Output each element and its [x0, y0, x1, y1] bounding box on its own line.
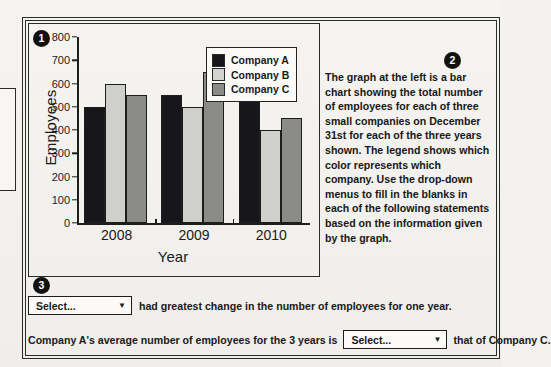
y-tick-mark-300 — [72, 153, 77, 154]
x-tick-label-2010: 2010 — [236, 227, 306, 243]
badge-two: 2 — [444, 52, 461, 69]
y-tick-label-100: 100 — [44, 194, 70, 206]
y-tick-mark-0 — [72, 222, 77, 223]
statement-two: Company A's average number of employees … — [28, 330, 494, 349]
y-tick-mark-600 — [72, 83, 77, 84]
x-axis-separator — [233, 219, 234, 224]
legend-label-company-b: Company B — [231, 69, 289, 81]
legend-swatch-company-a — [212, 54, 225, 67]
y-tick-label-300: 300 — [44, 147, 70, 159]
x-axis-separator — [155, 219, 156, 224]
statement-two-dropdown-value: Select... — [351, 334, 391, 346]
bar-company-c-2010 — [281, 118, 302, 223]
chart-legend: Company A Company B Company C — [206, 47, 297, 102]
statement-one-dropdown-value: Select... — [36, 300, 76, 312]
y-tick-mark-200 — [72, 176, 77, 177]
x-tick-label-2008: 2008 — [82, 227, 152, 243]
badge-three: 3 — [33, 277, 50, 294]
bar-chart: Employees 0100200300400500600700800 2008… — [28, 23, 318, 275]
y-tick-label-700: 700 — [44, 54, 70, 66]
y-tick-mark-400 — [72, 129, 77, 130]
chevron-down-icon: ▼ — [434, 335, 442, 344]
left-cropped-box — [0, 88, 16, 191]
bar-company-b-2009 — [182, 107, 203, 223]
instructions-text: The graph at the left is a bar chart sho… — [325, 70, 491, 245]
legend-swatch-company-b — [212, 68, 225, 81]
legend-item-company-b: Company B — [212, 68, 289, 81]
bar-company-b-2010 — [260, 130, 281, 223]
y-tick-label-0: 0 — [44, 217, 70, 229]
statement-one-text: had greatest change in the number of emp… — [139, 300, 452, 312]
legend-item-company-c: Company C — [212, 83, 289, 96]
legend-label-company-c: Company C — [231, 83, 289, 95]
y-tick-label-200: 200 — [44, 171, 70, 183]
y-tick-label-500: 500 — [44, 101, 70, 113]
x-axis-line — [77, 223, 310, 225]
y-axis-ticks: 0100200300400500600700800 — [40, 23, 70, 275]
y-tick-label-400: 400 — [44, 124, 70, 136]
bar-group-2008 — [84, 37, 147, 223]
statement-one-dropdown[interactable]: Select... ▼ — [28, 296, 132, 315]
bar-company-c-2008 — [126, 95, 147, 223]
legend-swatch-company-c — [212, 83, 225, 96]
statement-two-text-after: that of Company C. — [453, 334, 550, 346]
bar-company-a-2010 — [239, 84, 260, 224]
bar-company-a-2009 — [161, 95, 182, 223]
statement-one: Select... ▼ had greatest change in the n… — [28, 296, 494, 315]
x-axis-label: Year — [28, 248, 318, 265]
bar-company-b-2008 — [105, 84, 126, 224]
y-tick-mark-700 — [72, 60, 77, 61]
y-tick-label-600: 600 — [44, 78, 70, 90]
chevron-down-icon: ▼ — [118, 301, 126, 310]
statement-two-dropdown[interactable]: Select... ▼ — [343, 330, 447, 349]
y-tick-mark-100 — [72, 199, 77, 200]
y-tick-label-800: 800 — [44, 31, 70, 43]
x-tick-label-2009: 2009 — [159, 227, 229, 243]
y-tick-mark-500 — [72, 106, 77, 107]
statement-two-text-before: Company A's average number of employees … — [28, 334, 337, 346]
legend-label-company-a: Company A — [231, 54, 289, 66]
y-tick-mark-800 — [72, 36, 77, 37]
bar-company-a-2008 — [84, 107, 105, 223]
legend-item-company-a: Company A — [212, 54, 289, 67]
